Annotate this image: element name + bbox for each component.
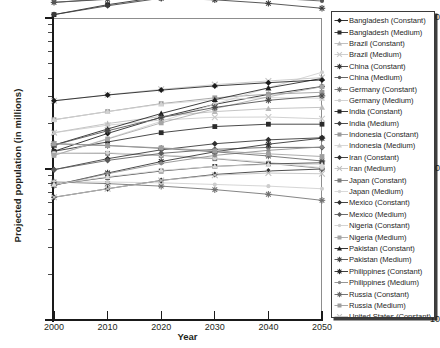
- data-point-marker: [158, 87, 164, 93]
- legend-item[interactable]: India (Medium): [333, 118, 434, 129]
- legend-marker-icon: [334, 163, 349, 174]
- legend-item[interactable]: United States (Constant): [333, 311, 434, 318]
- data-point-marker: [338, 30, 342, 34]
- series-line: [54, 153, 322, 168]
- data-point-marker: [159, 145, 164, 150]
- legend-marker-icon: [334, 277, 349, 288]
- data-point-marker: [320, 187, 324, 191]
- legend-item[interactable]: Bangladesh (Medium): [333, 26, 434, 37]
- legend-marker-icon: [334, 232, 349, 243]
- data-point-marker: [337, 291, 342, 296]
- legend-item[interactable]: India (Constant): [333, 106, 434, 117]
- data-point-marker: [265, 97, 271, 103]
- series-plot-area: [54, 18, 322, 320]
- legend-item-label: Russia (Medium): [349, 301, 406, 310]
- x-tick-mark: [53, 311, 54, 320]
- x-tick-mark: [107, 311, 108, 320]
- data-point-marker: [337, 212, 342, 217]
- data-point-marker: [212, 186, 218, 192]
- legend-item[interactable]: Japan (Constant): [333, 174, 434, 185]
- series-line: [54, 0, 322, 15]
- series-line: [54, 153, 322, 168]
- data-point-marker: [337, 121, 342, 126]
- data-point-marker: [212, 0, 218, 3]
- data-point-marker: [337, 64, 342, 69]
- legend-marker-icon: [334, 15, 349, 26]
- legend-item[interactable]: Russia (Constant): [333, 288, 434, 299]
- legend-item[interactable]: Philippines (Constant): [333, 266, 434, 277]
- legend-item[interactable]: Russia (Medium): [333, 300, 434, 311]
- data-point-marker: [158, 114, 164, 120]
- legend-item[interactable]: China (Medium): [333, 72, 434, 83]
- legend-item[interactable]: China (Constant): [333, 61, 434, 72]
- legend-item[interactable]: Japan (Medium): [333, 186, 434, 197]
- legend-item[interactable]: Pakistan (Medium): [333, 254, 434, 265]
- data-point-marker: [337, 269, 342, 274]
- data-point-marker: [319, 5, 325, 11]
- legend-marker-icon: [334, 38, 349, 49]
- data-point-marker: [338, 110, 342, 114]
- x-tick-mark: [161, 311, 162, 320]
- data-point-marker: [106, 151, 110, 155]
- data-point-marker: [337, 314, 342, 318]
- legend-marker-icon: [334, 106, 349, 117]
- data-point-marker: [338, 190, 341, 193]
- series-china-constant: [51, 0, 325, 12]
- data-point-marker: [338, 133, 342, 137]
- series-line: [54, 165, 322, 185]
- legend-item-label: Nigeria (Constant): [349, 221, 410, 230]
- legend-item-label: Iran (Constant): [349, 153, 399, 162]
- data-point-marker: [104, 128, 110, 134]
- data-point-marker: [337, 86, 342, 91]
- legend-item[interactable]: Iran (Medium): [333, 163, 434, 174]
- series-japan-constant: [52, 151, 325, 171]
- data-point-marker: [105, 137, 110, 142]
- data-point-marker: [212, 124, 217, 129]
- legend-item[interactable]: Nigeria (Constant): [333, 220, 434, 231]
- legend-item[interactable]: Brazil (Medium): [333, 49, 434, 60]
- data-point-marker: [265, 141, 271, 147]
- legend-item[interactable]: Indonesia (Medium): [333, 140, 434, 151]
- data-point-marker: [266, 122, 271, 127]
- data-point-marker: [159, 130, 164, 135]
- legend-item[interactable]: Brazil (Constant): [333, 38, 434, 49]
- series-line: [54, 78, 322, 101]
- legend-item[interactable]: Nigeria (Medium): [333, 231, 434, 242]
- legend-marker-icon: [334, 61, 349, 72]
- legend-item-label: Japan (Medium): [349, 187, 403, 196]
- legend-item[interactable]: Iran (Constant): [333, 152, 434, 163]
- chart-legend[interactable]: Bangladesh (Constant)Bangladesh (Medium)…: [331, 11, 435, 318]
- series-line: [54, 147, 322, 169]
- legend-item-label: China (Constant): [349, 62, 406, 71]
- data-point-marker: [337, 18, 342, 23]
- legend-item-label: India (Constant): [349, 107, 402, 116]
- y-axis-title: Projected population (in millions): [12, 66, 23, 266]
- legend-marker-icon: [334, 84, 349, 95]
- legend-item[interactable]: Germany (Constant): [333, 83, 434, 94]
- x-tick-mark: [268, 311, 269, 320]
- legend-item[interactable]: Pakistan (Constant): [333, 243, 434, 254]
- legend-item[interactable]: Philippines (Medium): [333, 277, 434, 288]
- data-point-marker: [319, 135, 325, 141]
- legend-marker-icon: [334, 140, 349, 151]
- legend-item[interactable]: Mexico (Medium): [333, 209, 434, 220]
- legend-marker-icon: [334, 118, 349, 129]
- legend-item-label: Mexico (Constant): [349, 198, 410, 207]
- series-germany-medium: [52, 180, 324, 191]
- data-point-marker: [159, 120, 164, 125]
- series-united-states-medium: [51, 77, 325, 104]
- legend-marker-icon: [334, 49, 349, 60]
- data-point-marker: [266, 151, 271, 156]
- legend-item[interactable]: Indonesia (Constant): [333, 129, 434, 140]
- x-axis-title: Year: [45, 331, 330, 342]
- legend-item-label: Mexico (Medium): [349, 210, 406, 219]
- legend-item-label: Philippines (Constant): [349, 267, 422, 276]
- legend-marker-icon: [334, 209, 349, 220]
- legend-item[interactable]: Mexico (Constant): [333, 197, 434, 208]
- legend-item-label: Philippines (Medium): [349, 278, 419, 287]
- series-brazil-constant: [51, 104, 325, 135]
- legend-marker-icon: [334, 220, 349, 231]
- legend-item[interactable]: Germany (Medium): [333, 95, 434, 106]
- legend-item[interactable]: Bangladesh (Constant): [333, 15, 434, 26]
- data-point-marker: [266, 184, 270, 188]
